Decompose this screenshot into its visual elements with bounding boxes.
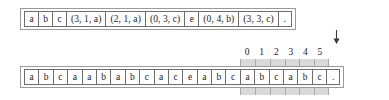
index-label: 0	[240, 47, 255, 59]
tape-cell[interactable]: b	[297, 69, 312, 85]
tape-cell[interactable]: c	[269, 69, 284, 85]
index-label: 5	[313, 47, 328, 59]
tape-cell[interactable]: (2, 1, a)	[105, 11, 145, 27]
tape-cell[interactable]: e	[184, 11, 199, 27]
tape-cell[interactable]: a	[24, 11, 39, 27]
tape-cell[interactable]: b	[96, 69, 111, 85]
tape-figure: abc(3, 1, a)(2, 1, a)(0, 3, c)e(0, 4, b)…	[0, 0, 389, 100]
tape-cell[interactable]: a	[197, 69, 212, 85]
tape-cell[interactable]: a	[283, 69, 298, 85]
tape-cell[interactable]: .	[278, 11, 292, 27]
tape-cell[interactable]: (3, 3, c)	[238, 11, 278, 27]
input-tape: abcaababcaceabcabcabc.	[20, 66, 344, 88]
tape-cell[interactable]: b	[38, 69, 53, 85]
tape-cell[interactable]: c	[168, 69, 183, 85]
lookahead-pointer-icon	[332, 30, 341, 44]
tape-cell[interactable]: a	[24, 69, 39, 85]
tape-cell[interactable]: a	[240, 69, 255, 85]
tape-cell[interactable]: b	[38, 11, 53, 27]
tape-cell[interactable]: a	[110, 69, 125, 85]
tape-cell[interactable]: e	[182, 69, 197, 85]
index-ruler: 012345	[240, 47, 327, 59]
output-tape: abc(3, 1, a)(2, 1, a)(0, 3, c)e(0, 4, b)…	[20, 8, 296, 30]
index-label: 4	[298, 47, 313, 59]
tape-cell[interactable]: c	[139, 69, 154, 85]
index-label: 3	[284, 47, 299, 59]
tape-cell[interactable]: c	[52, 11, 67, 27]
tape-cell[interactable]: b	[254, 69, 269, 85]
tape-cell[interactable]: c	[312, 69, 327, 85]
index-label: 2	[269, 47, 284, 59]
tape-cell[interactable]: b	[125, 69, 140, 85]
tape-cell[interactable]: a	[82, 69, 97, 85]
tape-cell[interactable]: c	[225, 69, 240, 85]
tape-cell[interactable]: a	[67, 69, 82, 85]
tape-cell[interactable]: b	[211, 69, 226, 85]
tape-cell[interactable]: c	[53, 69, 68, 85]
tape-cell[interactable]: (3, 1, a)	[66, 11, 106, 27]
tape-cell[interactable]: a	[154, 69, 169, 85]
tape-cell[interactable]: .	[326, 69, 340, 85]
tape-cell[interactable]: (0, 4, b)	[198, 11, 239, 27]
tape-cell[interactable]: (0, 3, c)	[145, 11, 185, 27]
index-label: 1	[254, 47, 269, 59]
